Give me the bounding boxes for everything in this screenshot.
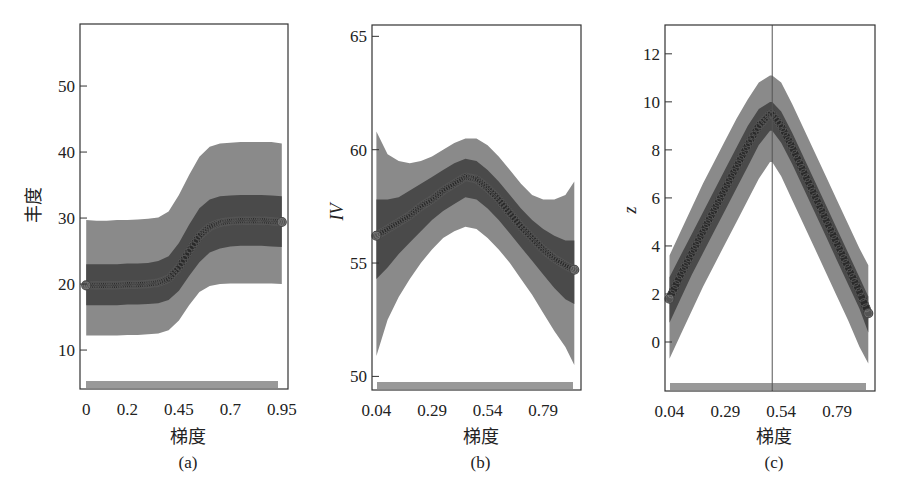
y-axis-label: 丰度 [23, 187, 44, 223]
y-tick-label: 50 [350, 367, 367, 386]
x-axis-label: 梯度 [463, 426, 499, 447]
y-tick-label: 30 [58, 209, 75, 228]
rug-marks [671, 383, 865, 390]
y-axis-label: z [620, 206, 640, 214]
x-axis-label: 梯度 [756, 426, 792, 447]
y-axis: 50556065 [350, 27, 379, 386]
y-tick-label: 65 [350, 27, 367, 46]
x-tick-label: 0.45 [164, 400, 194, 419]
end-marker [665, 294, 674, 303]
rug-marks [87, 381, 277, 388]
y-tick-label: 20 [58, 275, 75, 294]
rug-marks [378, 382, 572, 389]
y-tick-label: 50 [58, 77, 75, 96]
x-tick-label: 0.04 [655, 402, 685, 421]
y-tick-label: 2 [652, 285, 661, 304]
panel-caption: (c) [765, 453, 784, 472]
y-axis: 024681012 [643, 45, 672, 352]
x-axis: 0.040.290.540.79 [655, 402, 852, 421]
x-tick-label: 0.79 [822, 402, 852, 421]
plot-area [666, 75, 873, 363]
y-tick-label: 60 [350, 141, 367, 160]
y-tick-label: 40 [58, 143, 75, 162]
x-tick-label: 0.54 [766, 402, 796, 421]
end-marker [570, 265, 579, 274]
panel-b-iv-chart: 505560650.040.290.540.79梯度IV(b) [327, 25, 581, 472]
x-tick-label: 0.29 [417, 401, 447, 420]
y-tick-label: 6 [652, 189, 661, 208]
y-tick-label: 0 [652, 333, 661, 352]
end-marker [277, 218, 286, 227]
y-axis: 1020304050 [58, 77, 87, 360]
panel-c-z-chart: 0246810120.040.290.540.79梯度z(c) [620, 25, 875, 472]
x-tick-label: 0.95 [267, 400, 297, 419]
y-axis-label: IV [327, 202, 347, 222]
x-axis-label: 梯度 [170, 426, 206, 447]
end-marker [82, 281, 91, 290]
panel-a-abundance-chart: 102030405000.20.450.70.95梯度丰度(a) [23, 24, 297, 472]
panel-caption: (a) [179, 453, 198, 472]
x-tick-label: 0.54 [473, 401, 503, 420]
x-tick-label: 0 [82, 400, 91, 419]
x-tick-label: 0.29 [710, 402, 740, 421]
y-tick-label: 4 [652, 237, 661, 256]
y-tick-label: 55 [350, 254, 367, 273]
y-tick-label: 12 [643, 45, 660, 64]
plot-area [372, 132, 578, 366]
end-marker [372, 231, 381, 240]
x-tick-label: 0.79 [528, 401, 558, 420]
end-marker [864, 309, 873, 318]
x-tick-label: 0.7 [220, 400, 242, 419]
y-tick-label: 10 [58, 341, 75, 360]
plot-area [82, 142, 286, 335]
x-axis: 00.20.450.70.95 [82, 400, 297, 419]
x-tick-label: 0.04 [362, 401, 392, 420]
y-tick-label: 10 [643, 93, 660, 112]
y-tick-label: 8 [652, 141, 661, 160]
x-axis: 0.040.290.540.79 [362, 401, 559, 420]
figure-canvas: 102030405000.20.450.70.95梯度丰度(a) 5055606… [0, 0, 897, 496]
panel-caption: (b) [471, 453, 491, 472]
x-tick-label: 0.2 [117, 400, 138, 419]
